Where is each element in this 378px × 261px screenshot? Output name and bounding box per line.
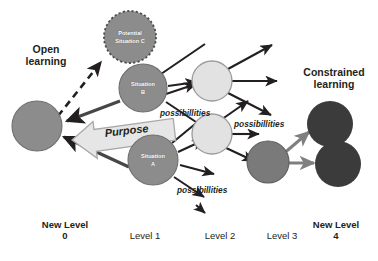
axis-label-level-2: Level 2	[185, 230, 255, 241]
node-label-situation-a: Situation A	[129, 153, 177, 168]
axis-label-level-0: New Level 0	[22, 219, 108, 241]
possibilities-label-2: possibillities	[234, 120, 284, 130]
edge-start-to-potential-c	[58, 62, 101, 116]
node-level2-upper[interactable]	[192, 61, 232, 101]
node-level4-upper[interactable]	[307, 101, 353, 147]
node-level3[interactable]	[247, 141, 289, 183]
edge-situation-a-branch-right	[180, 165, 214, 174]
axis-label-level-1: Level 1	[110, 230, 180, 241]
possibilities-label-1: possibillities	[160, 109, 210, 119]
axis-label-level-4: New Level 4	[296, 219, 376, 241]
diagram-canvas: Potential Situation C Situation B Situat…	[0, 0, 378, 261]
edge-stray-bottom	[196, 205, 205, 213]
node-level2-lower[interactable]	[192, 114, 232, 154]
edge-situation-b-to-start	[67, 101, 120, 121]
possibilities-label-3: possibillities	[177, 186, 227, 196]
edge-level2-fan-up	[228, 45, 272, 69]
node-start[interactable]	[12, 101, 62, 151]
open-learning-label: Open learning	[8, 43, 84, 68]
node-level4-lower[interactable]	[315, 141, 361, 187]
constrained-learning-label: Constrained learning	[292, 66, 376, 91]
node-label-situation-b: Situation B	[119, 81, 167, 96]
node-label-potential-situation-c: Potential Situation C	[105, 30, 155, 45]
